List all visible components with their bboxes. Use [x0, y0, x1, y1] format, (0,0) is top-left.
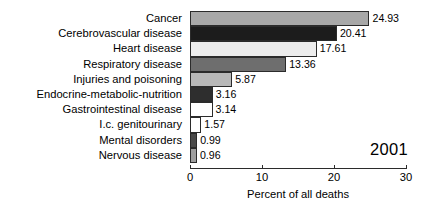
axis-tick [334, 165, 335, 169]
year-annotation: 2001 [370, 140, 408, 159]
bar [190, 41, 317, 56]
bar-row: 3.14 [190, 102, 406, 117]
bar-row: 3.16 [190, 87, 406, 102]
bar [190, 133, 197, 148]
category-label: Cerebrovascular disease [0, 26, 186, 41]
category-label: I.c. genitourinary [0, 117, 186, 132]
bar-value-label: 1.57 [201, 117, 225, 132]
bar [190, 148, 197, 163]
category-label: Nervous disease [0, 148, 186, 163]
bar-value-label: 3.14 [213, 102, 237, 117]
axis-tick [406, 165, 407, 169]
axis-tick [190, 165, 191, 169]
category-label: Heart disease [0, 41, 186, 56]
bar-value-label: 3.16 [213, 87, 237, 102]
category-label: Respiratory disease [0, 57, 186, 72]
bar-value-label: 20.41 [337, 26, 367, 41]
bar-chart: CancerCerebrovascular diseaseHeart disea… [0, 0, 424, 214]
category-label: Cancer [0, 11, 186, 26]
category-label: Gastrointestinal disease [0, 102, 186, 117]
bar-row: 13.36 [190, 57, 406, 72]
bar [190, 11, 369, 26]
value-axis-title: Percent of all deaths [190, 188, 406, 200]
value-axis-line [190, 168, 406, 169]
axis-tick-label: 20 [328, 171, 340, 183]
bar-value-label: 24.93 [369, 11, 399, 26]
bar-value-label: 13.36 [286, 57, 316, 72]
axis-tick [262, 165, 263, 169]
bar-row: 20.41 [190, 26, 406, 41]
bar-value-label: 0.99 [197, 133, 221, 148]
category-axis-labels: CancerCerebrovascular diseaseHeart disea… [0, 11, 186, 163]
bar-row: 1.57 [190, 117, 406, 132]
axis-tick-label: 30 [400, 171, 412, 183]
bar [190, 72, 232, 87]
category-label: Mental disorders [0, 133, 186, 148]
category-label: Endocrine-metabolic-nutrition [0, 87, 186, 102]
bar [190, 26, 337, 41]
bar [190, 117, 201, 132]
bar-value-label: 0.96 [197, 148, 221, 163]
bar-row: 5.87 [190, 72, 406, 87]
bar-row: 24.93 [190, 11, 406, 26]
bar-row: 17.61 [190, 41, 406, 56]
bar [190, 87, 213, 102]
bar-value-label: 5.87 [232, 72, 256, 87]
category-label: Injuries and poisoning [0, 72, 186, 87]
axis-tick-label: 10 [256, 171, 268, 183]
axis-tick-label: 0 [187, 171, 193, 183]
bar [190, 102, 213, 117]
bar [190, 57, 286, 72]
bar-value-label: 17.61 [317, 41, 347, 56]
